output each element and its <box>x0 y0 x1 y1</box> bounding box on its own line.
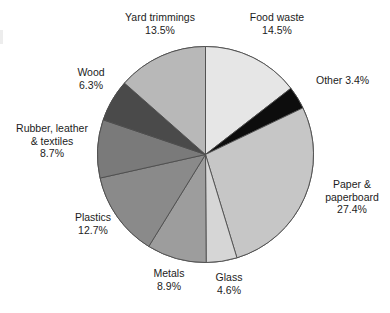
slice-label-paper-line1: Paper & <box>314 178 390 191</box>
slice-label-glass-value: 4.6% <box>200 284 258 297</box>
slice-label-rubber-line1: Rubber, leather <box>2 122 102 135</box>
slice-label-paper-paperboard: Paper & paperboard 27.4% <box>314 178 390 216</box>
slice-label-paper-value: 27.4% <box>314 203 390 216</box>
pie-slices-group <box>98 47 314 263</box>
slice-label-glass-name: Glass <box>200 271 258 284</box>
slice-label-paper-line2: paperboard <box>314 191 390 204</box>
slice-label-food-waste-value: 14.5% <box>228 24 326 37</box>
slice-label-plastics-value: 12.7% <box>62 224 124 237</box>
slice-label-food-waste: Food waste 14.5% <box>228 11 326 36</box>
pie-chart-figure: Yard trimmings 13.5% Food waste 14.5% Ot… <box>0 0 390 313</box>
slice-label-metals-value: 8.9% <box>140 280 198 293</box>
slice-label-wood-name: Wood <box>62 66 120 79</box>
slice-label-rubber-line2: & textiles <box>2 135 102 148</box>
slice-label-metals: Metals 8.9% <box>140 267 198 292</box>
slice-label-yard-trimmings-name: Yard trimmings <box>104 11 216 24</box>
slice-label-wood-value: 6.3% <box>62 79 120 92</box>
slice-label-glass: Glass 4.6% <box>200 271 258 296</box>
slice-label-rubber-value: 8.7% <box>2 147 102 160</box>
slice-label-yard-trimmings-value: 13.5% <box>104 24 216 37</box>
slice-label-food-waste-name: Food waste <box>228 11 326 24</box>
slice-label-rubber-leather-textiles: Rubber, leather & textiles 8.7% <box>2 122 102 160</box>
slice-label-wood: Wood 6.3% <box>62 66 120 91</box>
slice-label-plastics: Plastics 12.7% <box>62 211 124 236</box>
slice-label-metals-name: Metals <box>140 267 198 280</box>
slice-label-other: Other 3.4% <box>316 74 390 87</box>
slice-label-plastics-name: Plastics <box>62 211 124 224</box>
slice-label-yard-trimmings: Yard trimmings 13.5% <box>104 11 216 36</box>
slice-label-other-name: Other 3.4% <box>316 74 390 87</box>
